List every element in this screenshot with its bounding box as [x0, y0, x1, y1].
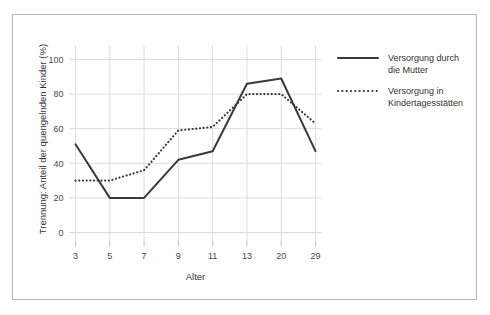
- x-tick-label: 20: [276, 251, 286, 261]
- x-tick-label: 11: [208, 251, 217, 261]
- y-tick-label: 0: [58, 228, 63, 238]
- x-tick-label: 29: [310, 251, 320, 261]
- legend-label-1-line1: Versorgung durch: [388, 53, 459, 63]
- x-tick-label: 3: [73, 251, 78, 261]
- chart-legend: Versorgung durchdie MutterVersorgung inK…: [338, 53, 463, 108]
- legend-label-1-line2: die Mutter: [388, 65, 428, 75]
- data-series-group: [76, 79, 316, 198]
- x-axis-title: Alter: [186, 271, 206, 282]
- figure-container: 020406080100 357911132029 Alter Trennung…: [0, 0, 490, 315]
- vertical-gridlines: [76, 46, 316, 241]
- legend-label-2-line2: Kindertagesstätten: [388, 98, 463, 108]
- x-tick-label: 9: [176, 251, 181, 261]
- legend-label-2-line1: Versorgung in: [388, 86, 444, 96]
- line-chart: 020406080100 357911132029 Alter Trennung…: [0, 0, 490, 315]
- y-tick-label: 60: [53, 124, 63, 134]
- y-tick-label: 40: [53, 159, 63, 169]
- x-tick-label: 5: [107, 251, 112, 261]
- y-axis-tick-labels: 020406080100: [48, 55, 63, 238]
- series-line-2: [76, 94, 316, 181]
- y-tick-label: 20: [53, 193, 63, 203]
- x-axis-tick-labels: 357911132029: [73, 251, 321, 261]
- y-tick-label: 100: [48, 55, 63, 65]
- x-tick-label: 7: [142, 251, 147, 261]
- y-axis-title: Trennung: Anteil der quengelnden Kinder …: [37, 44, 48, 234]
- x-axis-ticks: [76, 241, 316, 247]
- y-tick-label: 80: [53, 89, 63, 99]
- x-tick-label: 13: [242, 251, 252, 261]
